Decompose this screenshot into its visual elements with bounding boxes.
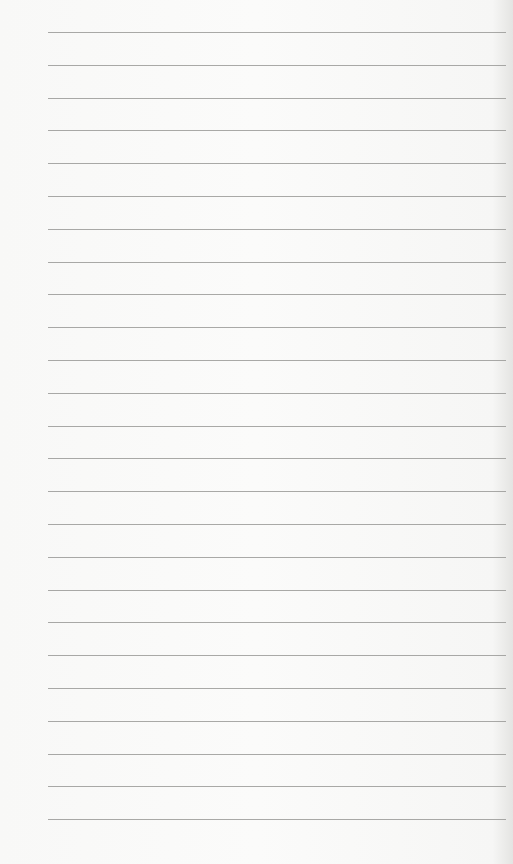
ruled-line	[48, 786, 506, 787]
ruled-line	[48, 426, 506, 427]
ruled-line	[48, 163, 506, 164]
ruled-line	[48, 65, 506, 66]
ruled-line	[48, 458, 506, 459]
ruled-line	[48, 524, 506, 525]
ruled-line	[48, 688, 506, 689]
ruled-line	[48, 557, 506, 558]
ruled-line	[48, 360, 506, 361]
ruled-line	[48, 294, 506, 295]
ruled-line	[48, 393, 506, 394]
ruled-line	[48, 622, 506, 623]
ruled-line	[48, 196, 506, 197]
ruled-line	[48, 130, 506, 131]
ruled-line	[48, 721, 506, 722]
ruled-line	[48, 754, 506, 755]
ruled-line	[48, 32, 506, 33]
ruled-line	[48, 327, 506, 328]
ruled-line	[48, 229, 506, 230]
ruled-line	[48, 819, 506, 820]
ruled-line	[48, 655, 506, 656]
ruled-line	[48, 262, 506, 263]
ruled-line	[48, 491, 506, 492]
lined-paper-sheet	[0, 0, 513, 864]
ruled-line	[48, 98, 506, 99]
ruled-line	[48, 590, 506, 591]
